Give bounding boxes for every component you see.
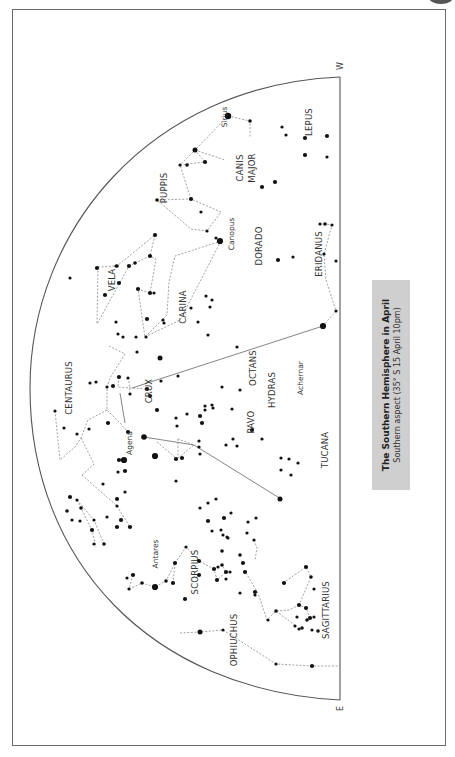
star-icon bbox=[136, 287, 140, 291]
star-icon bbox=[116, 470, 119, 473]
star-icon bbox=[235, 444, 238, 447]
star-icon bbox=[127, 587, 130, 590]
star-icon bbox=[222, 516, 226, 520]
star-icon bbox=[75, 498, 78, 501]
compass-east: E bbox=[336, 706, 345, 711]
star-icon bbox=[215, 578, 219, 582]
star-icon bbox=[224, 570, 228, 574]
star-icon bbox=[140, 581, 144, 585]
star-icon bbox=[198, 414, 202, 418]
star-icon bbox=[121, 335, 124, 338]
star-icon bbox=[334, 259, 337, 262]
star-icon bbox=[88, 381, 91, 384]
star-icon bbox=[216, 565, 219, 568]
star-icon bbox=[127, 264, 131, 268]
star-icon bbox=[295, 615, 298, 618]
star-icon bbox=[217, 238, 223, 244]
star-icon bbox=[305, 618, 309, 622]
star-icon bbox=[197, 445, 200, 448]
star-icon bbox=[224, 443, 227, 446]
star-icon bbox=[148, 291, 152, 295]
star-icon bbox=[318, 222, 321, 225]
star-icon bbox=[92, 542, 95, 545]
star-icon bbox=[87, 427, 90, 430]
star-icon bbox=[293, 624, 296, 627]
star-icon bbox=[206, 333, 209, 336]
star-icon bbox=[162, 321, 165, 324]
constellation-label-scorpius: SCORPIUS bbox=[190, 550, 200, 595]
star-icon bbox=[273, 180, 277, 184]
chart-subtitle: Southern aspect (35° S 15 April 10pm) bbox=[393, 280, 402, 490]
star-icon bbox=[210, 529, 213, 532]
star-icon bbox=[145, 317, 149, 321]
star-icon bbox=[152, 584, 158, 590]
star-icon bbox=[206, 519, 210, 523]
star-icon bbox=[274, 609, 278, 613]
star-icon bbox=[221, 533, 224, 536]
star-icon bbox=[159, 379, 162, 382]
star-icon bbox=[205, 229, 208, 232]
star-icon bbox=[121, 457, 127, 463]
star-icon bbox=[78, 519, 81, 522]
constellation-label-puppis: PUPPIS bbox=[159, 173, 169, 204]
star-icon bbox=[238, 553, 242, 557]
star-icon bbox=[199, 210, 202, 213]
star-icon bbox=[203, 408, 206, 411]
star-icon bbox=[102, 542, 106, 546]
star-icon bbox=[325, 134, 329, 138]
constellation-label-dorado: DORADO bbox=[254, 226, 264, 265]
constellation-label-tucana: TUCANA bbox=[320, 432, 330, 470]
constellation-label-carina: CARINA bbox=[178, 290, 188, 324]
star-label-sirius: Sirius bbox=[220, 107, 229, 128]
star-icon bbox=[141, 434, 147, 440]
star-icon bbox=[210, 403, 213, 406]
star-icon bbox=[183, 597, 187, 601]
star-icon bbox=[245, 531, 248, 534]
star-icon bbox=[312, 587, 315, 590]
star-icon bbox=[173, 561, 177, 565]
star-icon bbox=[279, 468, 282, 471]
star-icon bbox=[219, 528, 222, 531]
constellation-label-canis: CANIS bbox=[235, 154, 245, 181]
star-icon bbox=[176, 374, 179, 377]
star-icon bbox=[125, 576, 128, 579]
compass-west: W bbox=[336, 62, 345, 70]
star-icon bbox=[158, 356, 163, 361]
star-icon bbox=[220, 385, 223, 388]
horizon-arc bbox=[30, 77, 340, 700]
star-icon bbox=[174, 479, 177, 482]
star-icon bbox=[117, 458, 121, 462]
pointer-lines bbox=[120, 326, 323, 499]
star-icon bbox=[214, 497, 217, 500]
star-icon bbox=[228, 570, 231, 573]
star-icon bbox=[171, 581, 175, 585]
star-icon bbox=[276, 258, 280, 262]
star-icon bbox=[210, 298, 213, 301]
star-icon bbox=[204, 294, 207, 297]
star-icon bbox=[65, 509, 69, 513]
star-icon bbox=[133, 261, 137, 265]
star-icon bbox=[243, 570, 247, 574]
star-icon bbox=[144, 335, 147, 338]
star-icon bbox=[274, 662, 277, 665]
star-icon bbox=[304, 565, 308, 569]
star-icon bbox=[248, 119, 252, 123]
star-icon bbox=[280, 125, 283, 128]
star-icon bbox=[231, 437, 234, 440]
star-icon bbox=[229, 511, 232, 514]
star-icon bbox=[300, 626, 304, 630]
star-icon bbox=[189, 197, 193, 201]
star-icon bbox=[211, 406, 214, 409]
star-icon bbox=[235, 345, 238, 348]
star-icon bbox=[198, 630, 203, 635]
star-icon bbox=[297, 627, 300, 630]
star-icon bbox=[297, 603, 301, 607]
star-icon bbox=[278, 497, 283, 502]
star-icon bbox=[230, 407, 233, 410]
star-icon bbox=[117, 375, 121, 379]
star-icon bbox=[79, 506, 83, 510]
star-icon bbox=[117, 281, 121, 285]
star-icon bbox=[221, 628, 224, 631]
star-icon bbox=[309, 575, 313, 579]
star-icon bbox=[303, 153, 307, 157]
